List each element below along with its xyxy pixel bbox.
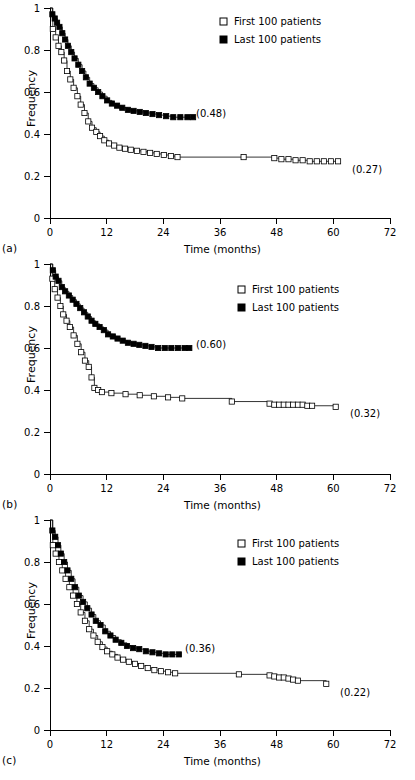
data-point-open-square <box>295 678 300 683</box>
data-point-filled-square <box>72 585 77 590</box>
x-ticks-a <box>50 218 390 224</box>
legend-marker-open-square <box>220 18 227 25</box>
annotation-first-b: (0.32) <box>350 408 380 419</box>
data-point-filled-square <box>113 637 118 642</box>
x-tick-label: 12 <box>100 483 113 494</box>
data-point-filled-square <box>171 115 176 120</box>
data-point-filled-square <box>72 56 77 61</box>
y-tick-label: 0 <box>34 725 40 736</box>
x-tick-label: 24 <box>157 483 170 494</box>
y-tick-label: 0 <box>34 469 40 480</box>
data-point-open-square <box>75 94 80 99</box>
data-point-open-square <box>58 303 63 308</box>
series-line <box>50 8 193 117</box>
data-point-open-square <box>56 43 61 48</box>
data-point-open-square <box>91 633 96 638</box>
data-point-open-square <box>95 639 100 644</box>
series-group-a <box>50 8 341 164</box>
data-point-open-square <box>128 147 133 152</box>
data-point-filled-square <box>187 345 192 350</box>
data-point-open-square <box>67 585 72 590</box>
data-point-filled-square <box>120 105 125 110</box>
data-point-open-square <box>154 151 159 156</box>
data-point-open-square <box>286 157 291 162</box>
data-point-open-square <box>165 395 170 400</box>
data-point-open-square <box>78 610 83 615</box>
data-point-filled-square <box>60 31 65 36</box>
x-tick-label: 48 <box>270 227 283 238</box>
data-point-open-square <box>112 143 117 148</box>
data-point-filled-square <box>109 101 114 106</box>
x-tick-label: 48 <box>270 483 283 494</box>
legend-label-first: First 100 patients <box>252 284 339 295</box>
x-tick-label: 36 <box>214 483 227 494</box>
data-point-open-square <box>324 681 329 686</box>
data-point-filled-square <box>150 650 155 655</box>
data-point-filled-square <box>131 341 136 346</box>
y-ticks-b <box>44 264 50 474</box>
x-tick-label: 60 <box>327 483 340 494</box>
data-point-open-square <box>64 318 69 323</box>
data-point-filled-square <box>119 640 124 645</box>
y-tick-label: 1 <box>34 259 40 270</box>
data-point-open-square <box>63 576 68 581</box>
data-point-filled-square <box>69 576 74 581</box>
data-point-open-square <box>109 391 114 396</box>
annotation-last-a: (0.48) <box>196 108 226 119</box>
data-point-open-square <box>106 141 111 146</box>
data-point-open-square <box>236 672 241 677</box>
x-tick-labels-a: 0 12 24 36 48 60 72 <box>47 227 397 238</box>
y-axis-label-a: Frequency <box>25 44 38 154</box>
data-point-open-square <box>71 85 76 90</box>
data-point-open-square <box>50 26 55 31</box>
data-point-open-square <box>52 287 57 292</box>
data-point-filled-square <box>150 111 155 116</box>
data-point-filled-square <box>120 338 125 343</box>
data-point-open-square <box>300 158 305 163</box>
chart-panel-b: Frequency 1 0.8 0.6 0.4 0.2 0 <box>0 256 415 516</box>
x-axis-label-b: Time (months) <box>0 499 415 511</box>
data-point-open-square <box>173 671 178 676</box>
data-point-open-square <box>55 295 60 300</box>
data-point-open-square <box>137 393 142 398</box>
data-point-open-square <box>123 392 128 397</box>
data-point-open-square <box>60 568 65 573</box>
x-tick-label: 72 <box>384 483 397 494</box>
data-point-filled-square <box>124 643 129 648</box>
data-point-open-square <box>335 159 340 164</box>
data-point-open-square <box>68 77 73 82</box>
data-point-filled-square <box>178 115 183 120</box>
legend-b: First 100 patients Last 100 patients <box>238 284 339 313</box>
chart-panel-c: Frequency 1 0.8 0.6 0.4 0.2 0 <box>0 512 415 772</box>
annotation-last-b: (0.60) <box>196 339 226 350</box>
data-point-open-square <box>86 119 91 124</box>
data-point-filled-square <box>125 340 130 345</box>
legend-marker-open-square <box>238 286 245 293</box>
data-point-filled-square <box>175 345 180 350</box>
x-ticks-c <box>50 730 390 736</box>
legend-label-first: First 100 patients <box>234 16 321 27</box>
data-point-open-square <box>307 159 312 164</box>
data-point-filled-square <box>76 62 81 67</box>
x-tick-label: 0 <box>47 227 53 238</box>
x-tick-label: 36 <box>214 227 227 238</box>
y-tick-label: 1 <box>34 515 40 526</box>
data-point-open-square <box>279 157 284 162</box>
data-point-filled-square <box>63 37 68 42</box>
annotation-last-c: (0.36) <box>185 643 215 654</box>
data-point-open-square <box>99 390 104 395</box>
data-point-filled-square <box>169 345 174 350</box>
data-point-open-square <box>180 396 185 401</box>
data-point-filled-square <box>115 336 120 341</box>
data-point-open-square <box>61 312 66 317</box>
data-point-open-square <box>272 156 277 161</box>
data-point-filled-square <box>170 652 175 657</box>
data-point-filled-square <box>190 115 195 120</box>
plot-a: 1 0.8 0.6 0.4 0.2 0 0 12 24 36 <box>0 0 415 245</box>
x-tick-label: 36 <box>214 739 227 750</box>
data-point-open-square <box>309 403 314 408</box>
data-point-filled-square <box>185 115 190 120</box>
chart-panel-a: Frequency 1 0.8 0.6 0.4 0.2 <box>0 0 415 260</box>
data-point-filled-square <box>80 68 85 73</box>
data-point-open-square <box>115 655 120 660</box>
